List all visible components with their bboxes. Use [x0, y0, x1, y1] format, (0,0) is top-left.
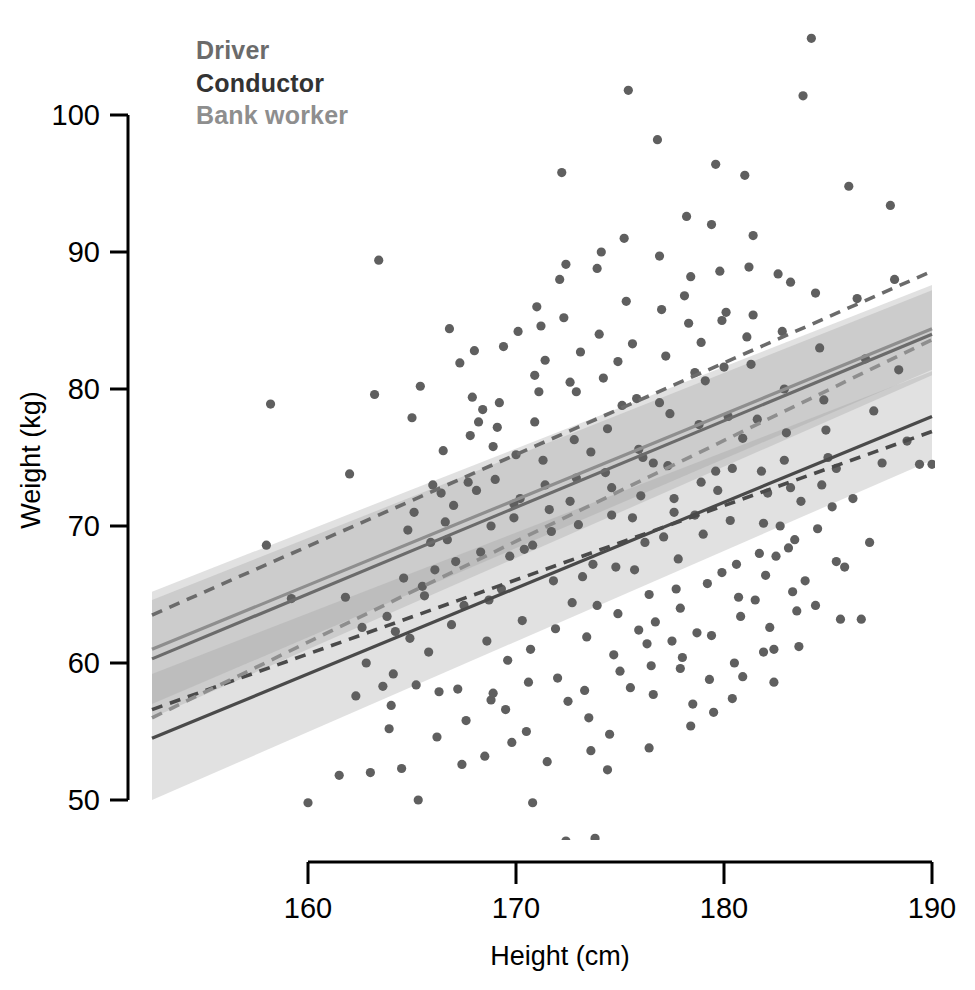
svg-text:160: 160	[284, 892, 332, 924]
x-axis: 160170180190	[284, 862, 956, 924]
svg-text:170: 170	[492, 892, 540, 924]
svg-text:90: 90	[68, 236, 100, 268]
svg-text:180: 180	[700, 892, 748, 924]
chart-root: 5060708090100 160170180190 Weight (kg) H…	[0, 0, 975, 990]
svg-text:100: 100	[52, 99, 100, 131]
svg-text:50: 50	[68, 784, 100, 816]
legend: Driver Conductor Bank worker	[196, 34, 348, 132]
svg-text:70: 70	[68, 510, 100, 542]
legend-item-conductor: Conductor	[196, 67, 348, 100]
y-axis: 5060708090100	[52, 99, 128, 816]
svg-text:190: 190	[908, 892, 956, 924]
legend-item-driver: Driver	[196, 34, 348, 67]
svg-text:80: 80	[68, 373, 100, 405]
svg-text:60: 60	[68, 647, 100, 679]
scatter-plot-canvas: 5060708090100 160170180190 Weight (kg) H…	[0, 0, 975, 990]
x-axis-label: Height (cm)	[490, 941, 630, 971]
y-axis-label: Weight (kg)	[16, 391, 46, 529]
legend-item-bank-worker: Bank worker	[196, 99, 348, 132]
